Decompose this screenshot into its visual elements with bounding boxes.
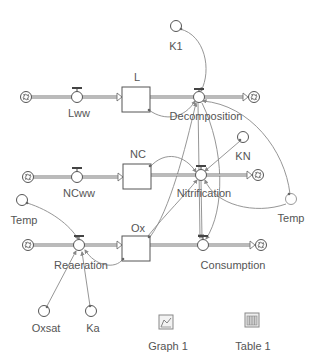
converter-temp-right[interactable] — [286, 194, 297, 205]
converter-ka[interactable] — [86, 306, 97, 317]
valve-reaeration[interactable] — [74, 236, 85, 251]
connector-nc-nitrification — [150, 156, 196, 172]
table-label[interactable]: Table 1 — [235, 340, 270, 352]
valve-decomposition[interactable] — [194, 89, 205, 103]
label-stock-ox: Ox — [131, 222, 145, 234]
label-stock-l: L — [134, 71, 140, 83]
connector-k1-decomposition — [180, 29, 206, 91]
valve-nitrification[interactable] — [196, 166, 207, 181]
graph-label[interactable]: Graph 1 — [148, 340, 188, 352]
cloud-icon — [253, 170, 264, 181]
converter-temp-left[interactable] — [17, 195, 28, 206]
label-consumption: Consumption — [201, 259, 266, 271]
label-lww: Lww — [68, 107, 90, 119]
table-icon[interactable] — [245, 313, 259, 327]
valve-ncww[interactable] — [72, 168, 83, 183]
cloud-icon — [23, 240, 34, 251]
graph-icon[interactable] — [159, 315, 173, 329]
cloud-icon — [249, 92, 260, 103]
label-temp-right: Temp — [278, 212, 305, 224]
stock-ox[interactable] — [122, 236, 150, 261]
valve-lww[interactable] — [72, 88, 83, 103]
label-oxsat: Oxsat — [32, 322, 61, 334]
stock-nc[interactable] — [123, 164, 151, 189]
label-decomposition: Decomposition — [170, 110, 243, 122]
label-k1: K1 — [169, 40, 182, 52]
cloud-icon — [256, 240, 267, 251]
label-nitrification: Nitrification — [177, 187, 231, 199]
cloud-icon — [21, 92, 32, 103]
connector-ox-decomposition — [150, 103, 196, 237]
label-stock-nc: NC — [130, 148, 146, 160]
stock-l[interactable] — [122, 87, 150, 112]
label-kn: KN — [235, 150, 250, 162]
cloud-icon — [23, 172, 34, 183]
label-ncww: NCww — [63, 187, 95, 199]
diagram-canvas — [0, 0, 317, 361]
label-ka: Ka — [86, 322, 99, 334]
label-reaeration: Reaeration — [54, 259, 108, 271]
converter-k1[interactable] — [171, 21, 182, 32]
label-temp-left: Temp — [11, 214, 38, 226]
